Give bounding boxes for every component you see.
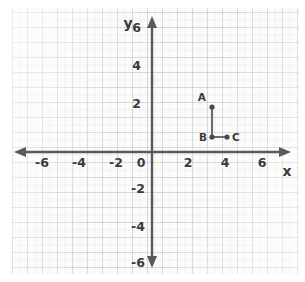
coordinate-plane-figure: -6 -4 -2 0 2 4 6 6 4 2 -2 -4 -6 y x [0,0,305,282]
x-tick-label: -6 [35,155,49,170]
x-tick-label: -2 [109,155,123,170]
y-tick-label: -6 [131,255,145,270]
x-axis-title: x [282,163,291,179]
point-a-marker [209,104,214,109]
x-tick-label: 6 [258,155,267,170]
y-tick-label: 4 [132,58,141,73]
y-tick-labels: 6 4 2 -2 -4 -6 [131,20,145,270]
point-c-label: C [232,131,240,143]
y-axis-top-arrow-icon [147,16,157,28]
point-c-marker [224,134,229,139]
point-labels: A B C [198,91,240,143]
x-axis-right-arrow-icon [279,147,291,157]
y-tick-label: 6 [132,20,141,35]
segment-path-abc [212,107,227,137]
y-tick-label: -4 [131,219,145,234]
y-axis [147,16,157,268]
point-a-label: A [198,91,207,103]
point-b-marker [209,134,214,139]
x-axis-left-arrow-icon [14,147,26,157]
point-b-label: B [199,131,207,143]
x-tick-label: 4 [221,155,230,170]
y-tick-label: 2 [132,96,141,111]
x-tick-label: -4 [72,155,86,170]
y-axis-bottom-arrow-icon [147,256,157,268]
y-axis-title: y [123,15,132,31]
y-tick-label: -2 [131,181,145,196]
x-tick-label: 2 [184,155,193,170]
origin-label: 0 [137,155,146,170]
plot-area: -6 -4 -2 0 2 4 6 6 4 2 -2 -4 -6 y x [0,0,305,282]
